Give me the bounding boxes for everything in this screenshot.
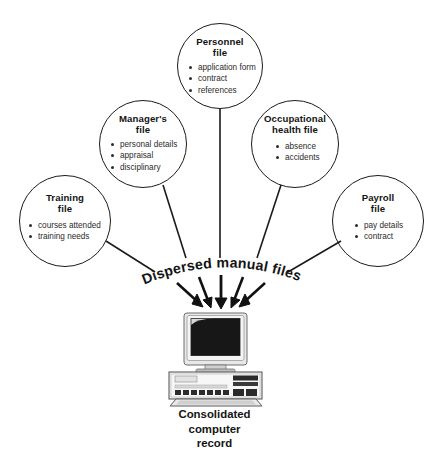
- bubble-payroll-title: Payroll file: [333, 192, 423, 215]
- list-item: appraisal: [111, 150, 177, 161]
- bubble-payroll-items: pay details contract: [355, 220, 403, 243]
- list-item: application form: [189, 62, 256, 73]
- list-item: disciplinary: [111, 162, 177, 173]
- bubble-managers-items: personal details appraisal disciplinary: [111, 139, 177, 173]
- consolidated-computer-record-caption: Consolidated computer record: [0, 407, 429, 451]
- list-item: accidents: [276, 152, 320, 163]
- bullet-icon: [355, 235, 358, 238]
- caption-line-2: computer: [189, 423, 241, 435]
- bullet-icon: [276, 156, 279, 159]
- dispersed-manual-files-text: Dispersed manual files: [139, 254, 303, 287]
- bubble-occupational-health-items: absence accidents: [276, 141, 320, 164]
- bullet-icon: [189, 66, 192, 69]
- bubble-training-title: Training file: [20, 192, 110, 215]
- bubble-training-items: courses attended training needs: [29, 220, 101, 243]
- list-item: training needs: [29, 231, 101, 242]
- list-item: pay details: [355, 220, 403, 231]
- list-item: courses attended: [29, 220, 101, 231]
- cropped-figure-caption-artifact: [8, 457, 421, 465]
- bullet-icon: [111, 166, 114, 169]
- bullet-icon: [29, 224, 32, 227]
- list-item: personal details: [111, 139, 177, 150]
- bubble-occupational-health[interactable]: Occupational health file absence acciden…: [251, 100, 339, 188]
- bubble-personnel-title: Personnel file: [178, 36, 262, 59]
- diagram-canvas: Dispersed manual files Personnel file ap…: [0, 0, 429, 468]
- bullet-icon: [29, 235, 32, 238]
- bubble-managers[interactable]: Manager's file personal details appraisa…: [99, 100, 187, 188]
- bullet-icon: [355, 224, 358, 227]
- bubble-personnel[interactable]: Personnel file application form contract…: [177, 23, 263, 109]
- bullet-icon: [111, 143, 114, 146]
- caption-line-1: Consolidated: [178, 408, 250, 420]
- bubble-payroll[interactable]: Payroll file pay details contract: [332, 175, 424, 267]
- bullet-icon: [189, 89, 192, 92]
- bubble-training[interactable]: Training file courses attended training …: [19, 175, 111, 267]
- bullet-icon: [276, 145, 279, 148]
- bubble-occupational-health-title: Occupational health file: [252, 113, 338, 136]
- bubble-managers-title: Manager's file: [100, 113, 186, 136]
- list-item: absence: [276, 141, 320, 152]
- list-item: references: [189, 85, 256, 96]
- bullet-icon: [189, 77, 192, 80]
- list-item: contract: [189, 73, 256, 84]
- bubble-personnel-items: application form contract references: [189, 62, 256, 96]
- bullet-icon: [111, 154, 114, 157]
- list-item: contract: [355, 231, 403, 242]
- caption-line-3: record: [197, 437, 232, 449]
